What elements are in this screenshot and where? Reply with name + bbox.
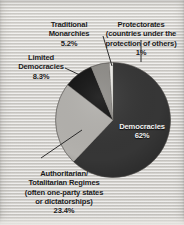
pie-label-limited-democracies: Limited Democracies 8.3%: [10, 44, 72, 90]
pie-label-authoritarian-percent: 23.4%: [2, 206, 126, 215]
pie-label-limited-democracies-text: Limited Democracies: [18, 53, 64, 71]
pie-label-protectorates: Protectorates (countries under the prote…: [100, 11, 182, 66]
pie-label-protectorates-percent: 1%: [100, 48, 182, 57]
pie-label-democracies-text: Democracies: [119, 122, 165, 131]
pie-chart-figure: Traditional Monarchies 5.2% Protectorate…: [0, 0, 184, 225]
pie-label-authoritarian-text: Authoritarian/ Totalitarian Regimes (oft…: [25, 169, 103, 206]
pie-label-authoritarian: Authoritarian/ Totalitarian Regimes (oft…: [2, 160, 126, 224]
pie-label-limited-democracies-percent: 8.3%: [10, 72, 72, 81]
pie-label-democracies-percent: 62%: [110, 131, 174, 140]
pie-label-protectorates-text: Protectorates (countries under the prote…: [105, 20, 176, 47]
pie-label-democracies: Democracies 62%: [110, 113, 174, 150]
pie-label-traditional-monarchies-text: Traditional Monarchies: [49, 20, 90, 38]
